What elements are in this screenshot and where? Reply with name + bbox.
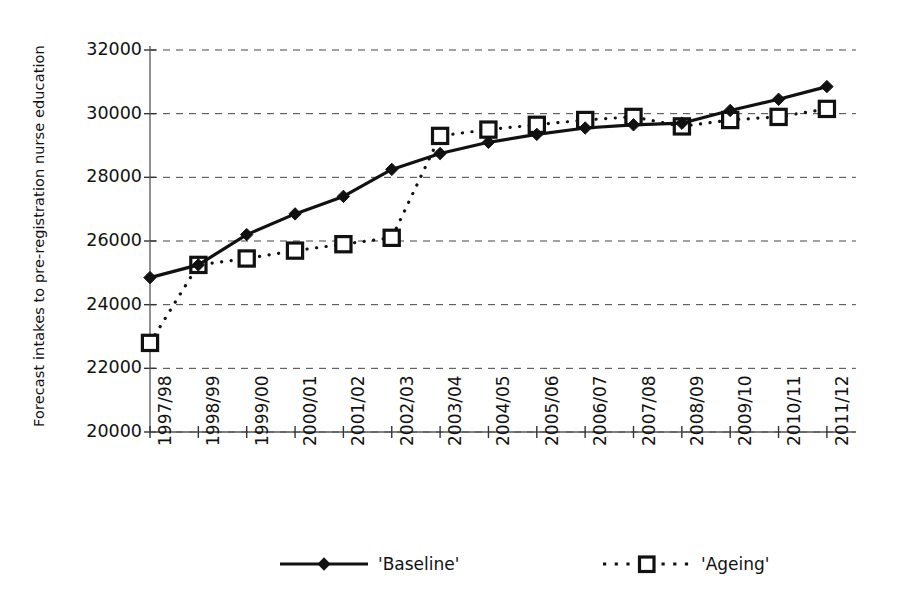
x-axis-tick-label: 2006/07 [592, 375, 609, 446]
legend-label-ageing: 'Ageing' [701, 554, 770, 574]
legend-swatch-ageing [601, 553, 693, 575]
x-axis-tick-label: 2004/05 [495, 375, 512, 446]
x-axis-tick-label: 2007/08 [641, 375, 658, 446]
x-axis-tick-label: 2009/10 [737, 375, 754, 446]
legend-label-baseline: 'Baseline' [378, 554, 459, 574]
plot-area [0, 0, 905, 599]
x-axis-tick-label: 2001/02 [350, 375, 367, 446]
x-axis-tick-label: 2010/11 [786, 375, 803, 446]
x-axis-tick-label: 2005/06 [544, 375, 561, 446]
x-axis-tick-label: 2000/01 [302, 375, 319, 446]
x-axis-tick-label: 2002/03 [399, 375, 416, 446]
x-axis-tick-label: 2003/04 [447, 375, 464, 446]
chart-legend: 'Baseline' 'Ageing' [0, 551, 905, 591]
legend-item-baseline: 'Baseline' [278, 551, 459, 577]
x-axis-tick-label: 1997/98 [157, 375, 174, 446]
x-axis-tick-label: 2011/12 [834, 375, 851, 446]
line-chart: Forecast intakes to pre-registration nur… [0, 0, 905, 599]
axis-lines [150, 46, 856, 432]
x-axis-tick-label: 1998/99 [205, 375, 222, 446]
x-axis-tick-label: 2008/09 [689, 375, 706, 446]
x-axis-tick-label: 1999/00 [254, 375, 271, 446]
legend-swatch-baseline [278, 553, 370, 575]
legend-item-ageing: 'Ageing' [601, 551, 770, 577]
